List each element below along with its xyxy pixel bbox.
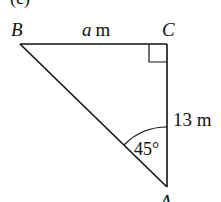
side-bc-variable: a	[82, 19, 92, 40]
side-bc-unit: m	[96, 19, 111, 40]
vertex-label-b: B	[11, 19, 23, 40]
side-bc-label: am	[82, 19, 111, 40]
vertex-label-a: A	[158, 191, 172, 202]
right-angle-marker	[149, 44, 167, 62]
part-label: (c)	[10, 0, 30, 9]
side-ca-label: 13 m	[173, 109, 212, 130]
vertex-label-c: C	[162, 19, 175, 40]
side-ba	[20, 44, 167, 187]
triangle-diagram: (c) B C A am 13 m 45°	[0, 0, 221, 202]
angle-a-label: 45°	[134, 139, 159, 159]
